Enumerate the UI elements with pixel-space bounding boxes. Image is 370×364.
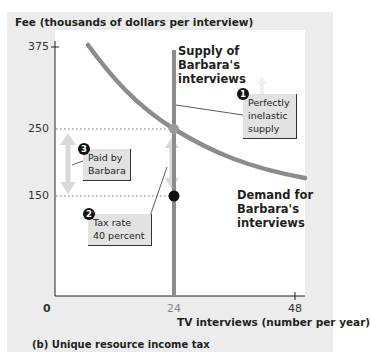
x-tick-label-48: 48 bbox=[288, 302, 302, 315]
supply-label: Supply of Barbara's interviews bbox=[178, 44, 246, 86]
callout-line: Perfectly bbox=[248, 96, 292, 109]
demand-label-line: interviews bbox=[237, 216, 313, 230]
callout-tax-rate: Tax rate 40 percent bbox=[88, 214, 152, 246]
callout-line: inelastic bbox=[248, 109, 292, 122]
demand-label-line: Barbara's bbox=[237, 202, 313, 216]
y-axis-title: Fee (thousands of dollars per interview) bbox=[15, 16, 253, 28]
callout-line: supply bbox=[248, 122, 292, 135]
leader-line-3 bbox=[72, 161, 83, 165]
leader-line-1 bbox=[176, 105, 243, 115]
callout-perfectly-inelastic: Perfectly inelastic supply bbox=[243, 94, 297, 139]
x-axis-title: TV interviews (number per year) bbox=[177, 316, 370, 328]
figure-caption: (b) Unique resource income tax bbox=[32, 339, 210, 350]
x-tick-label-0: 0 bbox=[43, 302, 51, 315]
supply-label-line: Barbara's bbox=[178, 58, 246, 72]
callout-line: 40 percent bbox=[93, 229, 147, 242]
callout-line: Paid by bbox=[88, 151, 126, 164]
demand-label-line: Demand for bbox=[237, 188, 313, 202]
callout-paid-by-barbara: Paid by Barbara bbox=[83, 149, 131, 181]
y-tick-label-150: 150 bbox=[28, 189, 49, 202]
after-tax-point bbox=[169, 191, 180, 202]
callout-line: Barbara bbox=[88, 164, 126, 177]
x-tick-label-24: 24 bbox=[167, 302, 181, 315]
demand-label: Demand for Barbara's interviews bbox=[237, 188, 313, 230]
y-tick-label-250: 250 bbox=[28, 122, 49, 135]
y-tick-label-375: 375 bbox=[28, 40, 49, 53]
supply-label-line: interviews bbox=[178, 72, 246, 86]
callout-badge-1: 1 bbox=[237, 88, 249, 100]
callout-badge-3: 3 bbox=[78, 143, 90, 155]
callout-line: Tax rate bbox=[93, 216, 147, 229]
paid-by-barbara-arrow bbox=[60, 133, 76, 194]
callout-badge-2: 2 bbox=[83, 208, 95, 220]
equilibrium-point bbox=[169, 124, 179, 134]
supply-label-line: Supply of bbox=[178, 44, 246, 58]
